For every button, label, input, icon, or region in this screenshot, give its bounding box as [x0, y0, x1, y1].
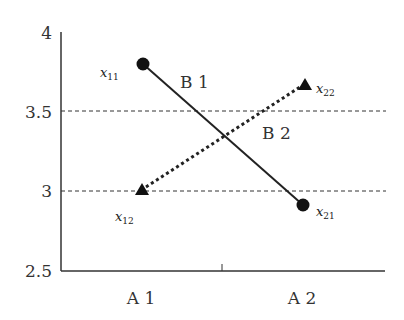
- point-label-x12: x12: [115, 209, 134, 226]
- point-label-x22: x22: [316, 81, 335, 98]
- interaction-plot: 4 3.5 3 2.5 A 1 A 2 B 1 B 2 x11 x12 x21 …: [0, 0, 404, 320]
- triangle-marker-x22: [298, 78, 312, 90]
- point-label-x11: x11: [100, 65, 119, 82]
- series-label-b2: B 2: [262, 123, 291, 143]
- y-tick-3-5: 3.5: [25, 102, 52, 122]
- circle-marker-x11: [137, 58, 150, 71]
- y-tick-4: 4: [41, 23, 52, 43]
- y-tick-3: 3: [41, 181, 52, 201]
- x-category-a1: A 1: [126, 288, 156, 308]
- y-tick-2-5: 2.5: [25, 261, 52, 281]
- x-category-a2: A 2: [287, 288, 317, 308]
- series-label-b1: B 1: [180, 72, 209, 92]
- point-label-x21: x21: [316, 204, 335, 221]
- circle-marker-x21: [297, 199, 310, 212]
